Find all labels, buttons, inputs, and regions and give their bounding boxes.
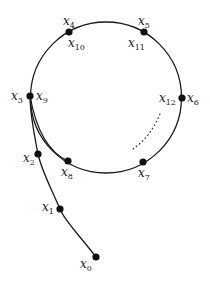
labels-layer: x0x1x2x3x9x4x10x5x11x12x6x7x8 [11,14,199,273]
point-label-x9: x9 [36,89,48,105]
point-label-x6: x6 [187,91,199,107]
orbit-diagram: x0x1x2x3x9x4x10x5x11x12x6x7x8 [0,0,210,281]
point-label-x8: x8 [61,165,73,181]
point-label-x11: x11 [128,36,145,52]
point-x8 [64,157,71,164]
point-x1 [56,205,63,212]
point-x2 [34,150,41,157]
point-label-x3: x3 [11,89,23,105]
point-label-x2: x2 [23,151,35,167]
point-label-x0: x0 [80,257,92,273]
point-label-x4: x4 [63,14,75,30]
point-label-x7: x7 [138,166,150,182]
point-x7 [139,158,146,165]
point-x3-x9 [26,92,33,99]
point-x12-x6 [178,94,185,101]
point-label-x5: x5 [138,14,150,30]
points-layer [26,28,185,260]
point-x0 [92,253,99,260]
point-label-x1: x1 [42,200,54,216]
point-label-x12: x12 [159,91,176,107]
point-label-x10: x10 [68,36,85,52]
dotted-continuation-curve [133,114,160,149]
